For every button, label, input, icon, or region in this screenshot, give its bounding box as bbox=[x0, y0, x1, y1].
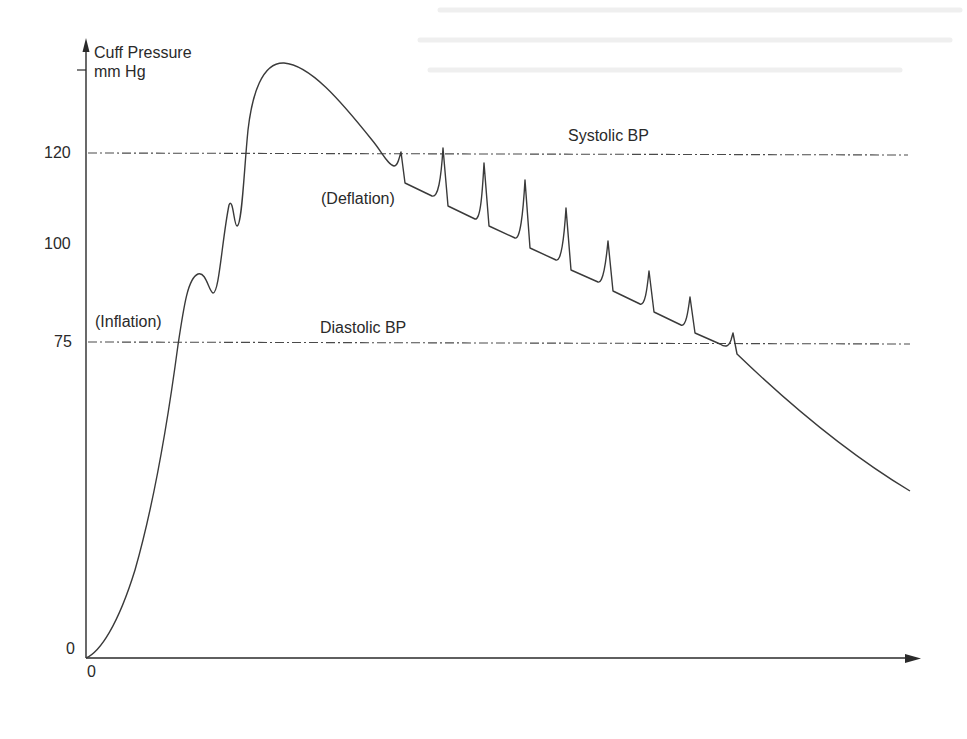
systolic-bp-label: Systolic BP bbox=[568, 128, 649, 144]
bleedthrough-text bbox=[420, 10, 960, 70]
y-axis-label-line2: mm Hg bbox=[94, 62, 192, 81]
x-axis-arrow-icon bbox=[905, 654, 921, 663]
x-tick-0: 0 bbox=[87, 664, 96, 680]
inflation-label: (Inflation) bbox=[95, 314, 162, 330]
y-tick-120: 120 bbox=[44, 145, 71, 161]
systolic-reference-line bbox=[88, 153, 908, 155]
cuff-pressure-curve bbox=[86, 63, 910, 658]
y-tick-0: 0 bbox=[66, 641, 75, 657]
y-axis-arrow-icon bbox=[83, 38, 90, 52]
y-axis-label: Cuff Pressure mm Hg bbox=[94, 43, 192, 81]
y-tick-75: 75 bbox=[54, 334, 72, 350]
diastolic-reference-line bbox=[88, 342, 910, 344]
y-tick-100: 100 bbox=[44, 236, 71, 252]
deflation-label: (Deflation) bbox=[321, 191, 395, 207]
diastolic-bp-label: Diastolic BP bbox=[320, 320, 406, 336]
chart-canvas bbox=[0, 0, 967, 739]
x-axis bbox=[86, 654, 921, 663]
y-axis-label-line1: Cuff Pressure bbox=[94, 43, 192, 62]
cuff-pressure-figure: Cuff Pressure mm Hg 120 100 75 0 0 Systo… bbox=[0, 0, 967, 739]
y-axis bbox=[77, 38, 90, 658]
